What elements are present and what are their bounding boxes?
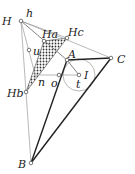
point-Hb — [24, 90, 28, 94]
point-C — [109, 56, 113, 60]
label-B: B — [17, 158, 26, 171]
point-o — [57, 73, 61, 77]
label-u: u — [33, 45, 40, 58]
point-u — [27, 48, 31, 52]
label-h: h — [26, 7, 33, 20]
label-n: n — [38, 76, 45, 89]
label-C: C — [117, 53, 126, 66]
point-B — [29, 161, 33, 165]
point-H — [19, 19, 23, 23]
label-Hc: Hc — [67, 26, 84, 39]
label-H: H — [1, 15, 12, 28]
label-t: t — [76, 78, 81, 91]
label-A: A — [67, 48, 76, 61]
label-Hb: Hb — [6, 87, 24, 100]
label-o: o — [51, 77, 58, 90]
label-I: I — [83, 69, 89, 82]
label-Ha: Ha — [41, 28, 58, 41]
orthocenter-triangle-diagram: H h Ha Hc A C u I t o n Hb B — [0, 0, 135, 174]
point-I — [77, 73, 81, 77]
